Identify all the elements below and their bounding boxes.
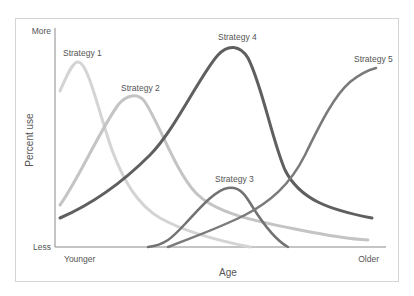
label-strategy-4: Strategy 4: [218, 32, 257, 42]
x-axis-title: Age: [219, 267, 237, 278]
label-strategy-5: Strategy 5: [354, 54, 393, 64]
series-strategy-2: [60, 96, 368, 240]
label-strategy-2: Strategy 2: [121, 83, 160, 93]
series-strategy-3: [148, 188, 288, 247]
label-strategy-3: Strategy 3: [215, 174, 254, 184]
y-tick-more: More: [32, 26, 52, 36]
series-strategy-5: [168, 68, 376, 247]
x-tick-younger: Younger: [64, 254, 96, 264]
y-axis-title: Percent use: [24, 113, 35, 167]
x-tick-older: Older: [358, 254, 379, 264]
chart-canvas: More Less Younger Older Age Percent use …: [0, 0, 414, 296]
label-strategy-1: Strategy 1: [63, 48, 102, 58]
y-tick-less: Less: [33, 242, 51, 252]
